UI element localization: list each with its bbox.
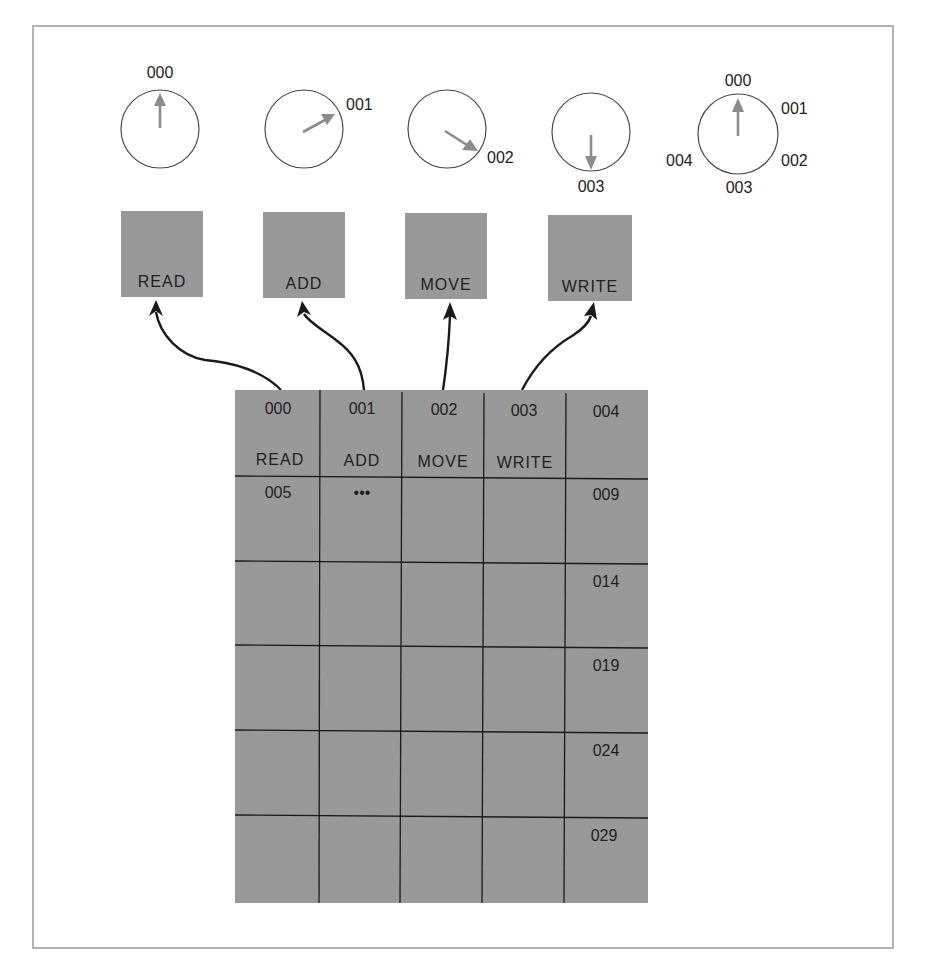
memory-grid: 000 001 002 003 004 READ ADD MOVE WRITE … bbox=[235, 390, 648, 903]
cell-address-000: 000 bbox=[265, 400, 292, 417]
arrow-001-to-add bbox=[304, 314, 364, 390]
cell-content-001: ADD bbox=[344, 452, 381, 469]
cell-address-001: 001 bbox=[349, 400, 376, 417]
instruction-box-write: WRITE bbox=[548, 215, 632, 301]
dial-002: 002 bbox=[408, 90, 514, 168]
legend-dial: 000 001 002 003 004 bbox=[666, 72, 808, 196]
dial-label: 002 bbox=[487, 149, 514, 166]
cell-address-003: 003 bbox=[511, 402, 538, 419]
cell-address-002: 002 bbox=[431, 401, 458, 418]
instruction-label: ADD bbox=[286, 275, 323, 292]
fetch-arrows bbox=[149, 300, 597, 390]
dial-face bbox=[408, 90, 486, 168]
instruction-box-add: ADD bbox=[263, 212, 345, 298]
row-end-address-029: 029 bbox=[591, 827, 618, 844]
position-label-000: 000 bbox=[725, 72, 752, 89]
instruction-label: MOVE bbox=[420, 276, 471, 293]
arrow-002-to-move bbox=[443, 316, 450, 390]
cell-address-005: 005 bbox=[265, 484, 292, 501]
arrow-000-to-read bbox=[156, 312, 281, 390]
instruction-label: WRITE bbox=[562, 278, 619, 295]
cell-content-000: READ bbox=[256, 451, 304, 468]
row-end-address-024: 024 bbox=[593, 742, 620, 759]
dial-face bbox=[265, 90, 343, 168]
row-end-address-009: 009 bbox=[593, 486, 620, 503]
dial-label: 000 bbox=[147, 64, 174, 81]
cell-address-004: 004 bbox=[593, 403, 620, 420]
position-label-002: 002 bbox=[781, 152, 808, 169]
dial-label: 003 bbox=[578, 178, 605, 195]
instruction-label: READ bbox=[138, 273, 186, 290]
instruction-box-read: READ bbox=[121, 211, 203, 297]
cell-content-003: WRITE bbox=[497, 454, 554, 471]
cell-content-002: MOVE bbox=[417, 453, 468, 470]
dial-001: 001 bbox=[265, 90, 373, 168]
position-label-001: 001 bbox=[781, 100, 808, 117]
dial-000: 000 bbox=[121, 64, 199, 168]
row-end-address-014: 014 bbox=[593, 573, 620, 590]
dial-label: 001 bbox=[346, 96, 373, 113]
position-label-004: 004 bbox=[666, 152, 693, 169]
instruction-box-move: MOVE bbox=[405, 213, 487, 299]
program-counter-diagram: 000 001 002 003 000 001 002 003 004 READ bbox=[0, 0, 928, 971]
position-label-003: 003 bbox=[726, 179, 753, 196]
ellipsis-icon: ••• bbox=[354, 484, 371, 501]
dial-003: 003 bbox=[552, 93, 630, 195]
arrow-003-to-write bbox=[522, 316, 591, 390]
row-end-address-019: 019 bbox=[593, 657, 620, 674]
